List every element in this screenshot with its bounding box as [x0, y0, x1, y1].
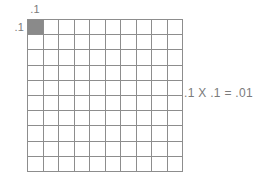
- grid-cell: [168, 96, 184, 111]
- grid-cell: [75, 96, 91, 111]
- grid-cell: [59, 50, 75, 65]
- grid-cell: [152, 35, 168, 50]
- grid-cell: [121, 50, 137, 65]
- grid-cell: [59, 81, 75, 96]
- grid-cell: [121, 66, 137, 81]
- grid-cell: [59, 126, 75, 141]
- grid-cell: [106, 50, 122, 65]
- grid-cell: [44, 111, 60, 126]
- grid-cell: [75, 142, 91, 157]
- grid-cell: [137, 157, 153, 172]
- grid-cell: [168, 157, 184, 172]
- grid-cell: [75, 35, 91, 50]
- grid-cell: [90, 126, 106, 141]
- grid-cell: [28, 66, 44, 81]
- grid-cell: [152, 66, 168, 81]
- grid-cell: [44, 142, 60, 157]
- grid-cell: [106, 157, 122, 172]
- grid-cell: [168, 66, 184, 81]
- grid-cell: [75, 157, 91, 172]
- grid-cell: [90, 50, 106, 65]
- grid-cell: [137, 81, 153, 96]
- grid-cell: [28, 96, 44, 111]
- grid-cell: [59, 66, 75, 81]
- grid-cell: [152, 157, 168, 172]
- grid-cell: [28, 157, 44, 172]
- grid-cell: [168, 81, 184, 96]
- grid-cell: [59, 157, 75, 172]
- grid-cell: [152, 111, 168, 126]
- grid-cell: [90, 81, 106, 96]
- grid-cell: [75, 20, 91, 35]
- grid-cell: [90, 96, 106, 111]
- grid-cell: [75, 66, 91, 81]
- grid-cell: [106, 111, 122, 126]
- grid-cell: [44, 126, 60, 141]
- grid-cell: [28, 50, 44, 65]
- grid-cell: [28, 35, 44, 50]
- grid-cell: [121, 96, 137, 111]
- hundredths-grid: [27, 19, 183, 172]
- grid-cell: [137, 66, 153, 81]
- grid-cell: [106, 35, 122, 50]
- grid-cell: [137, 50, 153, 65]
- grid-cell: [90, 66, 106, 81]
- grid-cell: [137, 142, 153, 157]
- decimal-multiplication-grid-figure: .1 .1 .1 X .1 = .01: [0, 0, 269, 181]
- grid-cell: [44, 81, 60, 96]
- grid-cell: [121, 142, 137, 157]
- grid-cell: [44, 20, 60, 35]
- grid-cell: [44, 66, 60, 81]
- grid-cell: [28, 81, 44, 96]
- grid-cell: [106, 142, 122, 157]
- grid-cell: [168, 20, 184, 35]
- grid-cell: [44, 96, 60, 111]
- grid-cell: [168, 111, 184, 126]
- grid-cell: [152, 50, 168, 65]
- grid-cell: [137, 111, 153, 126]
- grid-cell-shaded: [28, 20, 44, 35]
- grid-cell: [168, 35, 184, 50]
- grid-cell: [75, 81, 91, 96]
- grid-cell: [168, 126, 184, 141]
- column-dimension-label: .1: [27, 3, 43, 16]
- grid-cell: [152, 142, 168, 157]
- grid-cell: [44, 35, 60, 50]
- grid-cell: [137, 126, 153, 141]
- grid-cell: [75, 111, 91, 126]
- grid-cell: [106, 96, 122, 111]
- grid-cell: [106, 81, 122, 96]
- grid-cell: [106, 66, 122, 81]
- grid-cell: [75, 50, 91, 65]
- grid-cell: [44, 157, 60, 172]
- grid-cell: [44, 50, 60, 65]
- grid-cell: [106, 126, 122, 141]
- grid-cell: [59, 96, 75, 111]
- grid-cell: [90, 20, 106, 35]
- grid-cells-container: [27, 19, 183, 172]
- grid-cell: [121, 157, 137, 172]
- grid-cell: [121, 20, 137, 35]
- grid-cell: [137, 20, 153, 35]
- grid-cell: [28, 126, 44, 141]
- grid-cell: [168, 50, 184, 65]
- equation-text: .1 X .1 = .01: [184, 86, 253, 100]
- grid-cell: [28, 111, 44, 126]
- grid-cell: [90, 111, 106, 126]
- grid-cell: [90, 142, 106, 157]
- grid-cell: [121, 81, 137, 96]
- grid-cell: [90, 157, 106, 172]
- grid-cell: [90, 35, 106, 50]
- grid-cell: [59, 142, 75, 157]
- grid-cell: [152, 126, 168, 141]
- grid-cell: [28, 142, 44, 157]
- grid-cell: [152, 20, 168, 35]
- row-dimension-label: .1: [6, 21, 24, 34]
- grid-cell: [59, 35, 75, 50]
- grid-cell: [106, 20, 122, 35]
- grid-cell: [59, 20, 75, 35]
- grid-cell: [121, 35, 137, 50]
- grid-cell: [168, 142, 184, 157]
- grid-cell: [59, 111, 75, 126]
- grid-cell: [152, 81, 168, 96]
